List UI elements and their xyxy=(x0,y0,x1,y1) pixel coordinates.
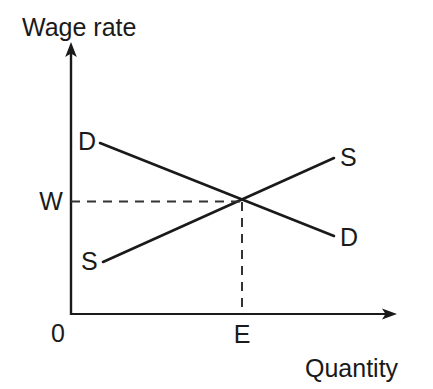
x-axis-title: Quantity xyxy=(305,354,399,382)
y-axis-title: Wage rate xyxy=(22,13,136,41)
demand-label-upper-left: D xyxy=(78,127,96,155)
origin-label: 0 xyxy=(51,319,65,347)
supply-label-lower-left: S xyxy=(81,247,98,275)
demand-label-lower-right: D xyxy=(340,223,358,251)
supply-demand-figure: Wage rate Quantity 0 W E D D S S xyxy=(0,0,433,389)
equilibrium-quantity-label: E xyxy=(234,320,251,348)
wage-quantity-chart: Wage rate Quantity 0 W E D D S S xyxy=(0,0,433,389)
supply-label-upper-right: S xyxy=(340,143,357,171)
equilibrium-wage-label: W xyxy=(39,187,63,215)
